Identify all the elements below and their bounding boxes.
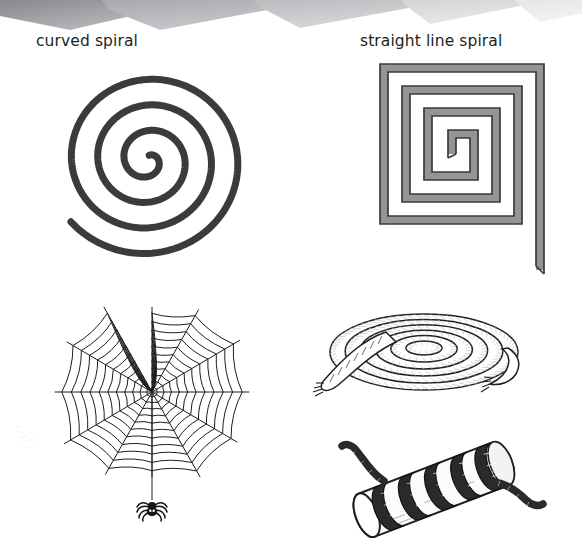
rope-end-left xyxy=(342,445,384,481)
square-spiral-figure xyxy=(348,58,573,283)
spider-web-icon xyxy=(52,300,252,545)
page-canvas: curved spiral straight line spiral xyxy=(0,0,582,549)
label-straight-line-spiral: straight line spiral xyxy=(360,32,502,50)
label-curved-spiral: curved spiral xyxy=(36,32,138,50)
zigzag-band xyxy=(0,0,582,30)
square-spiral-icon xyxy=(348,58,573,283)
rope-wrapped-log-icon xyxy=(322,424,547,539)
curved-spiral-figure xyxy=(28,52,268,272)
faint-pencil-smudge xyxy=(12,420,46,452)
rope-end-right xyxy=(494,482,543,505)
curved-spiral-icon xyxy=(28,52,268,272)
rope-wrapped-log-figure xyxy=(322,424,547,539)
coiled-rope-figure xyxy=(312,308,527,400)
coiled-rope-icon xyxy=(312,308,527,400)
spider-web-figure xyxy=(52,300,252,545)
spider-icon xyxy=(137,502,167,521)
